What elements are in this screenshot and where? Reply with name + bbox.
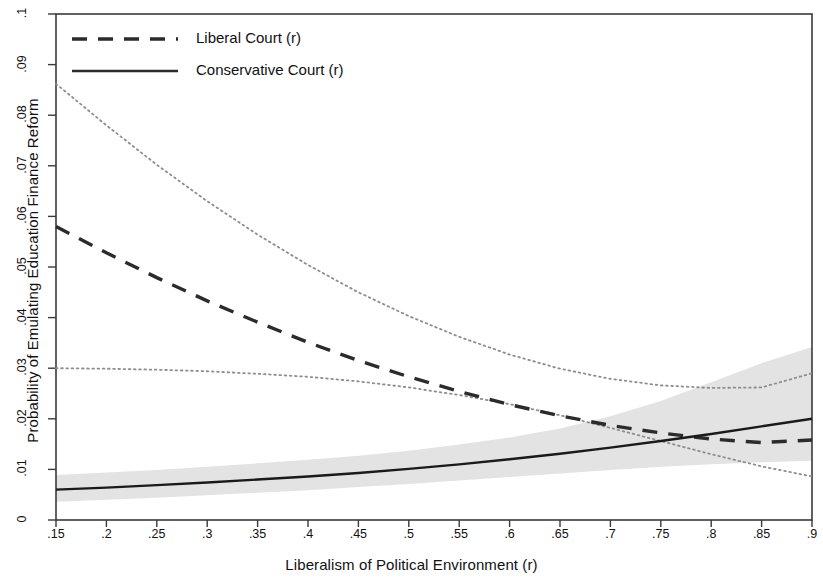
conservative-confidence-band bbox=[56, 347, 812, 502]
y-tick-label: .02 bbox=[15, 398, 29, 438]
legend-swatches bbox=[72, 39, 178, 71]
x-tick-label: .9 bbox=[792, 527, 823, 541]
x-tick-label: .4 bbox=[288, 527, 328, 541]
x-tick-label: .55 bbox=[439, 527, 479, 541]
x-tick-label: .7 bbox=[590, 527, 630, 541]
figure: Probability of Emulating Education Finan… bbox=[0, 0, 823, 584]
x-tick-label: .85 bbox=[742, 527, 782, 541]
x-tick-label: .5 bbox=[389, 527, 429, 541]
x-tick-label: .2 bbox=[86, 527, 126, 541]
x-tick-label: .35 bbox=[238, 527, 278, 541]
y-tick-label: 0 bbox=[15, 499, 29, 539]
y-tick-label: .06 bbox=[15, 195, 29, 235]
x-tick-label: .75 bbox=[641, 527, 681, 541]
chart-canvas bbox=[0, 0, 823, 584]
y-tick-label: .05 bbox=[15, 246, 29, 286]
y-tick-label: .09 bbox=[15, 44, 29, 84]
x-tick-label: .65 bbox=[540, 527, 580, 541]
x-tick-label: .45 bbox=[338, 527, 378, 541]
x-tick-label: .3 bbox=[187, 527, 227, 541]
y-tick-label: .01 bbox=[15, 448, 29, 488]
x-axis-title: Liberalism of Political Environment (r) bbox=[0, 556, 823, 573]
y-tick-label: .04 bbox=[15, 297, 29, 337]
confidence-band-group bbox=[56, 347, 812, 502]
legend-label-1: Liberal Court (r) bbox=[196, 29, 301, 46]
y-tick-label: .03 bbox=[15, 347, 29, 387]
ci-dotted-line bbox=[56, 84, 812, 388]
x-tick-label: .8 bbox=[691, 527, 731, 541]
x-tick-label: .15 bbox=[36, 527, 76, 541]
y-tick-label: .1 bbox=[15, 0, 29, 33]
x-tick-label: .6 bbox=[490, 527, 530, 541]
legend-label-2: Conservative Court (r) bbox=[196, 61, 344, 78]
x-tick-label: .25 bbox=[137, 527, 177, 541]
y-tick-label: .08 bbox=[15, 94, 29, 134]
y-tick-label: .07 bbox=[15, 145, 29, 185]
